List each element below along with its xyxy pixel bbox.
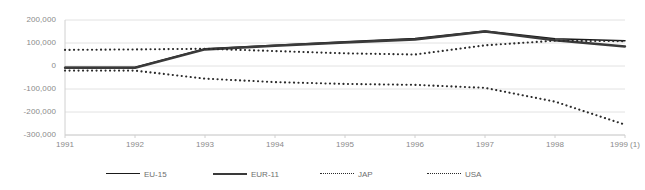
legend-item-usa[interactable]: USA: [427, 170, 534, 179]
x-tick-label: 1991: [35, 140, 95, 149]
series-line-usa: [65, 71, 625, 125]
x-tick-label: 1998: [525, 140, 585, 149]
y-tick-label: -100,000: [6, 84, 56, 93]
y-tick-label: 100,000: [6, 38, 56, 47]
x-tick-label: 1997: [455, 140, 515, 149]
x-tick-label: 1993: [175, 140, 235, 149]
legend-line-swatch-icon: [106, 170, 140, 178]
y-tick-label: -300,000: [6, 130, 56, 139]
legend-label: USA: [465, 170, 481, 179]
y-tick-label: -200,000: [6, 107, 56, 116]
series-lines: [65, 31, 625, 125]
legend-item-jap[interactable]: JAP: [320, 170, 427, 179]
legend-label: JAP: [358, 170, 373, 179]
legend-label: EU-15: [144, 170, 167, 179]
legend-line-swatch-icon: [427, 170, 461, 178]
x-tick-label: 1996: [385, 140, 445, 149]
x-tick-label: 1995: [315, 140, 375, 149]
legend-label: EUR-11: [251, 170, 279, 179]
legend-line-swatch-icon: [213, 170, 247, 178]
legend-line-swatch-icon: [320, 170, 354, 178]
x-tick-label: 1999 (1): [595, 140, 645, 149]
legend-item-eur-11[interactable]: EUR-11: [213, 170, 320, 179]
chart-legend: EU-15 EUR-11 JAP USA: [0, 164, 640, 184]
x-tick-label: 1992: [105, 140, 165, 149]
y-tick-label: 0: [6, 61, 56, 70]
legend-item-eu-15[interactable]: EU-15: [106, 170, 213, 179]
y-tick-label: 200,000: [6, 15, 56, 24]
x-tick-label: 1994: [245, 140, 305, 149]
series-line-eu-15: [65, 31, 625, 67]
